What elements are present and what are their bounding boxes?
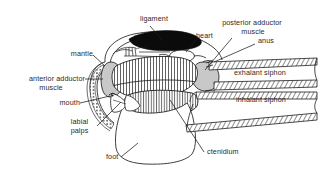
label-mantle: mantle: [50, 50, 93, 58]
label-exhalant-siphon: exhalant siphon: [234, 69, 286, 77]
label-foot: foot: [106, 153, 118, 161]
leader-anus: [214, 44, 255, 62]
label-anus: anus: [244, 37, 288, 45]
label-inhalant-siphon: inhalant siphon: [236, 96, 286, 104]
diagram-canvas: ligament heart posterior adductor muscle…: [0, 0, 321, 174]
label-mouth: mouth: [42, 99, 80, 107]
label-palps: palps: [62, 127, 97, 135]
label-heart: heart: [196, 32, 213, 40]
label-ligament: ligament: [124, 15, 184, 23]
label-anterior-adductor-muscle: muscle: [22, 84, 80, 92]
label-ctenidium: ctenidium: [207, 148, 239, 156]
